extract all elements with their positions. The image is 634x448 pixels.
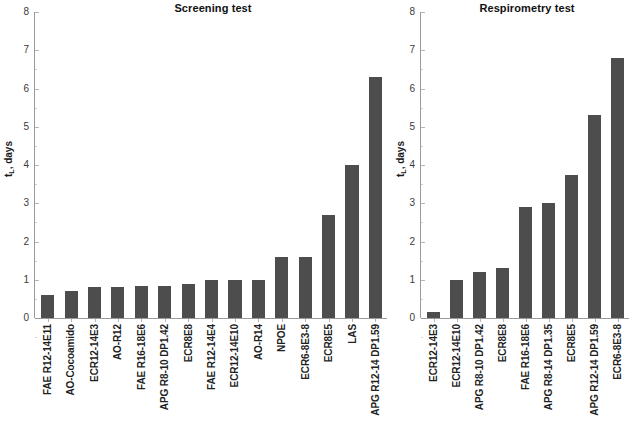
bar-group-right (422, 12, 629, 318)
x-axis-category-label: NPOE (276, 324, 287, 352)
x-axis-label-slot: APG R8-10 DP1.42 (467, 322, 490, 446)
x-axis-category-label: AO-Cocoamido (65, 324, 76, 396)
bar (565, 175, 578, 318)
x-axis-category-label: LAS (346, 324, 357, 344)
y-axis-tick-label: 5 (391, 122, 415, 132)
x-axis-category-label: ECR12-14E10 (450, 324, 461, 387)
bar-slot (445, 12, 468, 318)
bar (369, 77, 382, 318)
x-axis-label-slot: ECR12-14E3 (82, 322, 105, 446)
bar-slot (200, 12, 223, 318)
bar-slot (340, 12, 363, 318)
y-axis-tick-mark (421, 89, 425, 90)
y-axis-minor-tick-mark (421, 108, 423, 109)
y-axis-tick-label: 7 (391, 45, 415, 55)
figure-two-panel-bar-charts: Screening test tL, days 012345678 FAE R1… (0, 0, 634, 448)
y-axis-tick-label: 3 (5, 198, 29, 208)
bar-slot (176, 12, 199, 318)
y-axis-minor-tick-mark (35, 261, 37, 262)
bar (111, 287, 124, 318)
y-axis-tick-label: 8 (5, 7, 29, 17)
bar (275, 257, 288, 318)
bar (588, 115, 601, 318)
x-axis-category-label: APG R8-14 DP1.35 (543, 324, 554, 410)
y-axis-minor-tick-mark (35, 299, 37, 300)
y-axis-tick-mark (421, 12, 425, 13)
plot-area-left: 012345678 (34, 12, 387, 318)
y-axis-minor-tick-mark (421, 222, 423, 223)
x-axis-category-label: APG R12-14 DP1.59 (589, 324, 600, 416)
x-axis-label-slot: ECR6-8E3-8 (606, 322, 629, 446)
bar (252, 280, 265, 318)
y-axis-tick-mark (35, 12, 39, 13)
bar (450, 280, 463, 318)
x-axis-label-slot: AO-Cocoamido (58, 322, 81, 446)
bar-slot (583, 12, 606, 318)
bar (135, 286, 148, 319)
bar-slot (153, 12, 176, 318)
x-axis-label-slot: ECR8E8 (490, 322, 513, 446)
x-axis-label-slot: LAS (340, 322, 363, 446)
x-axis-category-label: ECR12-14E10 (229, 324, 240, 387)
x-axis-label-slot: ECR8E8 (176, 322, 199, 446)
panel-respirometry-test: Respirometry test tL, days 012345678 ECR… (392, 0, 634, 448)
y-axis-tick-label: 3 (391, 198, 415, 208)
y-axis-tick-mark (421, 318, 425, 319)
x-axis-category-label: ECR12-14E3 (88, 324, 99, 382)
bar-slot (468, 12, 491, 318)
x-axis-label-slot: FAE R12-14E4 (199, 322, 222, 446)
y-axis-tick-label: 2 (5, 237, 29, 247)
y-axis-tick-mark (421, 242, 425, 243)
y-axis-label-symbol: t (395, 174, 406, 177)
bar (542, 203, 555, 318)
bar (41, 295, 54, 318)
x-axis-category-labels-right: ECR12-14E3ECR12-14E10APG R8-10 DP1.42ECR… (421, 322, 629, 446)
x-axis-label-slot: ECR6-8E3-8 (293, 322, 316, 446)
y-axis-label-subscript: L (400, 169, 407, 173)
x-axis-label-slot: ECR12-14E3 (421, 322, 444, 446)
y-axis-tick-label: 4 (391, 160, 415, 170)
x-axis-label-slot: ECR12-14E10 (223, 322, 246, 446)
bar-slot (491, 12, 514, 318)
bar-group-left (36, 12, 387, 318)
x-axis-category-label: APG R8-10 DP1.42 (473, 324, 484, 410)
y-axis-tick-mark (35, 50, 39, 51)
x-axis-category-label: ECR12-14E3 (427, 324, 438, 382)
y-axis-tick-mark (35, 280, 39, 281)
x-axis-category-label: AO-R12 (112, 324, 123, 360)
x-axis-label-slot: ECR8E5 (317, 322, 340, 446)
bar-slot (606, 12, 629, 318)
x-axis-category-label: ECR8E8 (182, 324, 193, 362)
y-axis-tick-mark (421, 280, 425, 281)
bar-slot (223, 12, 246, 318)
x-axis-label-slot: ECR8E5 (560, 322, 583, 446)
x-axis-label-slot: FAE R16-18E6 (513, 322, 536, 446)
y-axis-tick-label: 6 (391, 84, 415, 94)
bar (322, 215, 335, 318)
bar (299, 257, 312, 318)
bar-slot (514, 12, 537, 318)
x-axis-label-slot: FAE R16-18E6 (129, 322, 152, 446)
x-axis-category-label: ECR8E8 (496, 324, 507, 362)
x-axis-category-label: FAE R12-14E4 (206, 324, 217, 390)
bar-slot (36, 12, 59, 318)
bar-slot (59, 12, 82, 318)
bar-slot (317, 12, 340, 318)
bar (496, 268, 509, 318)
x-axis-category-label: ECR8E5 (323, 324, 334, 362)
x-axis-category-label: APG R8-10 DP1.42 (159, 324, 170, 410)
bar (88, 287, 101, 318)
x-axis-label-slot: ECR12-14E10 (444, 322, 467, 446)
x-axis-label-slot: APG R12-14 DP1.59 (364, 322, 387, 446)
x-axis-category-label: ECR6-8E3-8 (299, 324, 310, 380)
y-axis-tick-mark (35, 127, 39, 128)
y-axis-tick-mark (35, 203, 39, 204)
bar-slot (130, 12, 153, 318)
bar (473, 272, 486, 318)
y-axis-tick-label: 7 (5, 45, 29, 55)
y-axis-label-subscript: L (8, 169, 15, 173)
bar (65, 291, 78, 318)
bar (611, 58, 624, 318)
bar-slot (537, 12, 560, 318)
y-axis-minor-tick-mark (35, 108, 37, 109)
